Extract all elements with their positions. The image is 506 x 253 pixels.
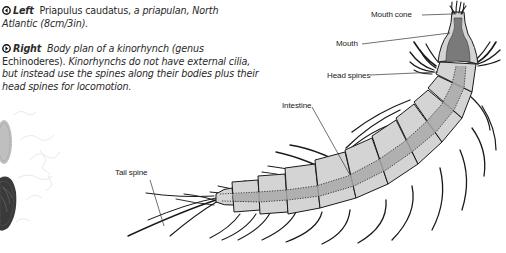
kinorhynch-diagram xyxy=(0,0,506,253)
tail-spines xyxy=(128,193,218,236)
label-mouth-cone: Mouth cone xyxy=(371,10,412,19)
priapulus-photo xyxy=(0,111,60,230)
label-head-spines: Head spines xyxy=(327,71,370,80)
body-segments xyxy=(216,62,476,214)
label-intestine: Intestine xyxy=(282,101,311,110)
label-tail-spine: Tail spine xyxy=(115,168,147,177)
label-mouth: Mouth xyxy=(336,39,358,48)
